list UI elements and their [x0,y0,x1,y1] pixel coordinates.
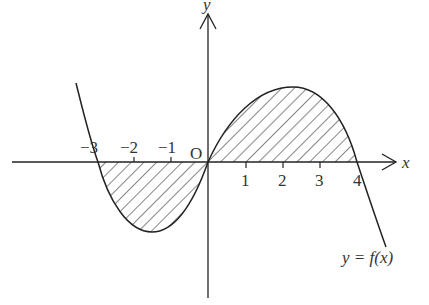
shaded-region-negative [98,162,208,232]
tick-label-2: 2 [278,171,287,190]
curve-label: y = f(x) [340,248,393,267]
tick-label-neg1: −1 [158,138,176,157]
tick-label-4: 4 [353,171,362,190]
origin-label: O [190,144,202,163]
tick-label-3: 3 [315,171,324,190]
tick-label-neg3: −3 [80,138,98,157]
graph-canvas: y x O −3 −2 −1 1 2 3 4 y = f(x) [0,0,429,305]
tick-label-1: 1 [241,171,250,190]
tick-label-neg2: −2 [120,138,138,157]
x-axis-label: x [401,153,410,172]
y-axis-label: y [201,0,211,14]
